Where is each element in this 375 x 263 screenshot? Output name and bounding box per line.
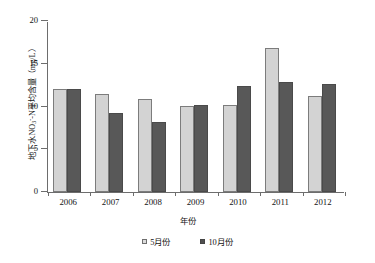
- y-tick-label-10: 10: [29, 101, 38, 111]
- y-tick-label-0: 0: [34, 186, 38, 196]
- x-tick-2007: [133, 192, 134, 196]
- y-axis-title-subscript: 3: [31, 121, 37, 124]
- bar-group-2009: [175, 22, 217, 192]
- y-tick-15: 15: [41, 63, 48, 64]
- bar-2008-may: [138, 99, 152, 192]
- x-tick-origin: [48, 192, 49, 196]
- x-tick-2010: [260, 192, 261, 196]
- plot-area: 05101520: [47, 22, 344, 193]
- bar-2009-may: [180, 106, 194, 192]
- bar-group-2010: [218, 22, 260, 192]
- x-tick-2011: [303, 192, 304, 196]
- bar-group-2007: [90, 22, 132, 192]
- legend-label-oct: 10月份: [208, 235, 232, 247]
- y-tick-20: 20: [41, 20, 48, 21]
- bar-2012-may: [308, 96, 322, 192]
- bar-2011-oct: [279, 82, 293, 192]
- x-axis-label-2012: 2012: [297, 197, 349, 207]
- y-axis-title-superscript: -: [27, 119, 33, 121]
- legend-item-oct: 10月份: [200, 235, 232, 247]
- x-tick-2009: [218, 192, 219, 196]
- bar-2011-may: [265, 48, 279, 192]
- y-axis-title-pre: 地下水NO: [28, 124, 37, 160]
- y-tick-label-15: 15: [29, 58, 38, 68]
- bar-2009-oct: [194, 105, 208, 192]
- chart-legend: 5月份 10月份: [0, 235, 375, 247]
- bar-group-2011: [260, 22, 302, 192]
- y-tick-label-5: 5: [34, 143, 38, 153]
- bar-2006-oct: [67, 89, 81, 192]
- bar-2006-may: [53, 89, 67, 192]
- bar-chart: 地下水NO3--N平均含量（mg/L） 05101520 20062007200…: [0, 0, 375, 263]
- x-tick-2006: [90, 192, 91, 196]
- bar-2008-oct: [152, 122, 166, 192]
- legend-swatch-oct-icon: [200, 239, 205, 244]
- x-axis-title: 年份: [0, 214, 375, 226]
- legend-swatch-may-icon: [142, 239, 147, 244]
- bar-2007-oct: [109, 113, 123, 192]
- x-tick-2008: [175, 192, 176, 196]
- y-tick-0: 0: [41, 191, 48, 192]
- bar-2010-may: [223, 105, 237, 192]
- bar-group-2012: [303, 22, 345, 192]
- legend-label-may: 5月份: [150, 235, 170, 247]
- legend-item-may: 5月份: [142, 235, 170, 247]
- bar-2010-oct: [237, 86, 251, 192]
- y-tick-10: 10: [41, 106, 48, 107]
- y-tick-5: 5: [41, 148, 48, 149]
- x-tick-2012: [345, 192, 346, 196]
- bar-group-2008: [133, 22, 175, 192]
- bar-2012-oct: [322, 84, 336, 192]
- bar-group-2006: [48, 22, 90, 192]
- bar-2007-may: [95, 94, 109, 192]
- bar-groups: [48, 22, 344, 192]
- y-tick-label-20: 20: [29, 15, 38, 25]
